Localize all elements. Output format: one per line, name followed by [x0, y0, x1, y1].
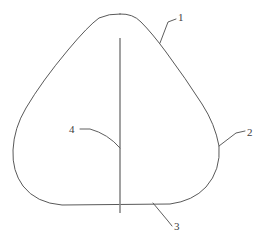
callout-label-4: 4: [69, 124, 75, 135]
part-outline-shape: [13, 14, 219, 205]
leader-line-2: [219, 131, 245, 146]
figure-canvas: 1 2 3 4: [0, 0, 269, 245]
callout-label-3: 3: [174, 221, 180, 232]
callout-label-2: 2: [247, 127, 253, 138]
leader-line-4: [80, 129, 120, 148]
callout-label-1: 1: [178, 12, 184, 23]
line-drawing-svg: [0, 0, 269, 245]
leader-line-3: [153, 203, 172, 226]
leader-line-1: [160, 19, 176, 43]
